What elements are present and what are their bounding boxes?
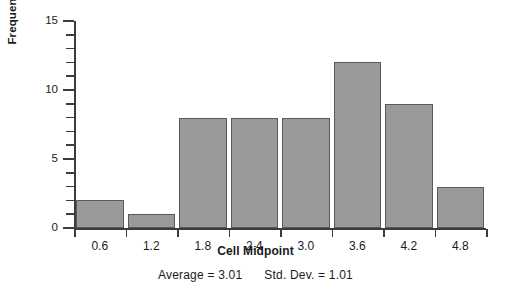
bar <box>76 200 124 228</box>
bar <box>385 104 433 228</box>
y-axis-minor-tick <box>66 48 74 50</box>
y-axis-tick-label: 5 <box>26 153 58 165</box>
bar <box>437 187 485 228</box>
y-axis-minor-tick <box>66 144 74 146</box>
x-axis-tick <box>74 229 76 237</box>
x-axis-tick <box>435 229 437 237</box>
x-axis-tick <box>177 229 179 237</box>
bar <box>231 118 279 228</box>
average-stat: Average = 3.01 <box>158 268 242 282</box>
y-axis-minor-tick <box>66 172 74 174</box>
x-axis-tick <box>383 229 385 237</box>
y-axis-minor-tick <box>66 75 74 77</box>
y-axis-major-tick <box>63 227 74 229</box>
x-axis-tick <box>280 229 282 237</box>
y-axis-tick-label-text: 0 <box>30 222 58 234</box>
bar <box>128 214 176 228</box>
y-axis-minor-tick <box>66 62 74 64</box>
y-axis-tick-label: 15 <box>26 15 58 27</box>
x-axis-tick <box>486 229 488 237</box>
y-axis-minor-tick <box>66 186 74 188</box>
y-axis-tick-label-text: 10 <box>30 84 58 96</box>
histogram-figure: Frequency 051015 0.61.21.82.43.03.64.24.… <box>0 0 511 296</box>
y-axis-major-tick <box>63 20 74 22</box>
y-axis-title: Frequency <box>6 0 24 80</box>
x-axis-tick <box>229 229 231 237</box>
stats-caption: Average = 3.01Std. Dev. = 1.01 <box>0 268 511 282</box>
bar <box>179 118 227 228</box>
y-axis-minor-tick <box>66 213 74 215</box>
y-axis-major-tick <box>63 158 74 160</box>
x-axis-tick <box>332 229 334 237</box>
x-axis-title: Cell Midpoint <box>0 244 511 258</box>
y-axis-line <box>74 21 76 229</box>
y-axis-major-tick <box>63 89 74 91</box>
y-axis-tick-label-text: 15 <box>30 15 58 27</box>
x-axis-tick <box>126 229 128 237</box>
bar <box>282 118 330 228</box>
y-axis-tick-label-text: 5 <box>30 153 58 165</box>
bar <box>334 62 382 228</box>
y-axis-minor-tick <box>66 131 74 133</box>
y-axis-minor-tick <box>66 103 74 105</box>
y-axis-minor-tick <box>66 34 74 36</box>
y-axis-minor-tick <box>66 200 74 202</box>
stddev-stat: Std. Dev. = 1.01 <box>264 268 353 282</box>
y-axis-tick-label: 0 <box>26 222 58 234</box>
y-axis-minor-tick <box>66 117 74 119</box>
y-axis-tick-label: 10 <box>26 84 58 96</box>
